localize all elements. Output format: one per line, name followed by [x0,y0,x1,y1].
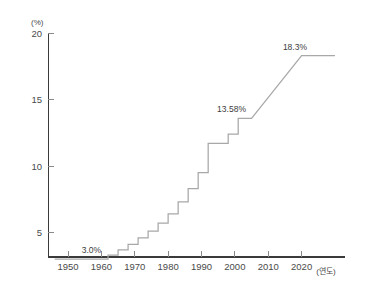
x-tick-label-1960: 1960 [91,261,112,272]
x-tick-labels: 19501960197019801990200020102020 [57,261,312,272]
data-series-line [55,56,335,259]
y-tick-label-5: 5 [37,227,42,238]
y-axis-unit-label: (%) [31,18,44,27]
y-tick-labels: 5101520 [31,28,42,239]
x-tick-marks [68,251,302,257]
x-tick-label-2020: 2020 [291,261,312,272]
step-line-chart: 5101520 (%) 1950196019701980199020002010… [0,0,366,300]
chart-page: 5101520 (%) 1950196019701980199020002010… [0,0,366,300]
x-axis-unit-label: (연도) [316,267,336,276]
x-tick-label-2000: 2000 [224,261,245,272]
annotation-label-13.58: 13.58% [217,104,246,114]
x-tick-label-1970: 1970 [124,261,145,272]
y-tick-label-10: 10 [31,161,42,172]
annotation-label-18.3: 18.3% [283,42,308,52]
x-tick-label-2010: 2010 [258,261,279,272]
x-tick-label-1990: 1990 [191,261,212,272]
data-point-annotations: 3.0%13.58%18.3% [82,42,308,255]
x-tick-label-1980: 1980 [158,261,179,272]
y-tick-label-15: 15 [31,94,42,105]
annotation-label-3.0: 3.0% [82,245,102,255]
x-tick-label-1950: 1950 [57,261,78,272]
y-tick-label-20: 20 [31,28,42,39]
y-axis-group: 5101520 (%) [31,18,54,257]
